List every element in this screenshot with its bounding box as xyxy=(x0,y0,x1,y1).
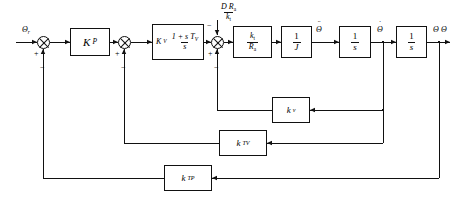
sign-sum1-plus: + xyxy=(34,50,39,58)
diagram-wires xyxy=(0,0,456,202)
block-ktv-feedback[interactable]: kTV xyxy=(219,130,267,156)
signal-label-theta-dot: ˙ Θ xyxy=(377,23,383,34)
summing-junction-velocity-error xyxy=(118,36,131,49)
input-label-disturbance: D Ra kt xyxy=(219,3,238,22)
signal-label-theta-ddot: ¨ Θ xyxy=(316,23,322,34)
block-kp[interactable]: KP xyxy=(70,28,110,56)
block-kv-feedback[interactable]: kv xyxy=(272,97,310,123)
input-label-reference: Θr xyxy=(22,26,30,35)
block-integrator-1[interactable]: 1 s xyxy=(339,26,371,58)
sign-sum3-plus: + xyxy=(208,50,213,58)
block-kt-over-ra[interactable]: kt Ra xyxy=(233,26,272,58)
block-ktp-feedback[interactable]: kTP xyxy=(164,165,212,191)
sign-sum1-minus: − xyxy=(40,64,45,72)
sign-sum3-minus-top: − xyxy=(207,22,212,30)
block-inverse-inertia[interactable]: 1 J xyxy=(281,26,312,58)
sign-sum2-minus: − xyxy=(121,64,126,72)
summing-junction-position-error xyxy=(37,36,50,49)
sign-sum3-minus-bottom: − xyxy=(214,64,219,72)
summing-junction-torque xyxy=(211,36,224,49)
sign-sum2-plus: + xyxy=(115,50,120,58)
block-kv-transfer[interactable]: KV 1 + s TV s xyxy=(152,24,204,60)
block-diagram: + − + − + − − Θr D Ra kt Θ ¨ Θ ˙ Θ Θ KP xyxy=(0,0,456,202)
output-label-theta: Θ xyxy=(441,26,447,34)
signal-label-theta: Θ xyxy=(433,23,439,34)
block-integrator-2[interactable]: 1 s xyxy=(396,26,427,58)
